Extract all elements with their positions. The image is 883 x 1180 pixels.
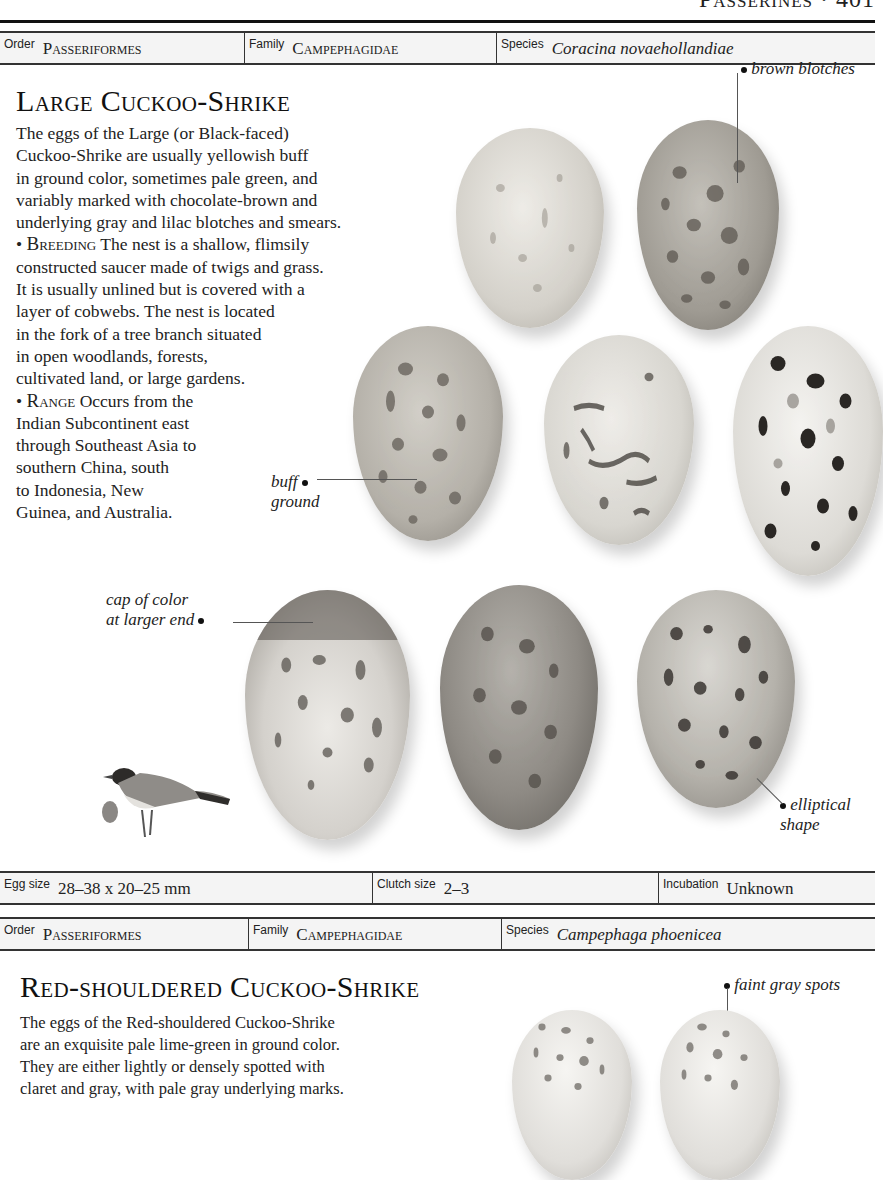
callout-faint-gray-spots: faint gray spots [724, 975, 840, 995]
range-heading: Range [27, 390, 76, 411]
bird-illustration [100, 755, 240, 840]
order-cell: Order Passeriformes [0, 919, 249, 949]
incubation-cell: Incubation Unknown [659, 873, 875, 903]
measurement-bar-species1: Egg size 28–38 x 20–25 mm Clutch size 2–… [0, 871, 875, 905]
leader-line [737, 73, 738, 183]
range-line: through Southeast Asia to [16, 434, 341, 456]
family-label: Family [249, 37, 284, 51]
family-label: Family [253, 923, 288, 937]
family-cell: Family Campephagidae [249, 919, 502, 949]
leader-line [233, 622, 313, 623]
egg-dark-spotted [733, 326, 883, 576]
species-label: Species [501, 37, 544, 51]
species-value: Coracina novaehollandiae [552, 39, 734, 59]
leader-line [317, 479, 417, 480]
order-cell: Order Passeriformes [0, 33, 245, 63]
species-cell: Species Campephaga phoenicea [502, 919, 875, 949]
description-line: variably marked with chocolate-brown and [16, 189, 341, 211]
description-line: Cuckoo-Shrike are usually yellowish buff [16, 144, 341, 166]
clutch-size-value: 2–3 [444, 879, 470, 899]
breeding-line: constructed saucer made of twigs and gra… [16, 256, 341, 278]
egg-spotted-lime [512, 1010, 632, 1180]
callout-buff-ground: buff ground [271, 472, 320, 512]
egg-streaked [544, 335, 694, 545]
family-cell: Family Campephagidae [245, 33, 497, 63]
breeding-heading: Breeding [27, 233, 97, 254]
breeding-line: cultivated land, or large gardens. [16, 367, 341, 389]
species-description: The eggs of the Large (or Black-faced) C… [16, 122, 341, 523]
order-value: Passeriformes [43, 39, 142, 59]
egg-faint-spotted [660, 1010, 780, 1180]
egg-dark-ground [440, 585, 598, 830]
callout-brown-blotches: brown blotches [741, 59, 855, 79]
callout-dot-icon [198, 618, 204, 624]
taxonomy-bar-species2: Order Passeriformes Family Campephagidae… [0, 917, 875, 951]
egg-buff-ground [353, 326, 503, 541]
description-line: The eggs of the Large (or Black-faced) [16, 122, 341, 144]
family-value: Campephagidae [296, 925, 402, 945]
description-line: are an exquisite pale lime-green in grou… [20, 1034, 344, 1056]
egg-brown-blotched [637, 120, 779, 330]
callout-elliptical-shape: ellipticalshape [780, 795, 851, 835]
breeding-line: It is usually unlined but is covered wit… [16, 278, 341, 300]
order-label: Order [4, 923, 35, 937]
egg-pale-buff [456, 128, 604, 328]
description-line: underlying gray and lilac blotches and s… [16, 211, 341, 233]
callout-cap-of-color: cap of colorat larger end [106, 590, 204, 630]
breeding-line: in the fork of a tree branch situated [16, 323, 341, 345]
breeding-first-line: • Breeding The nest is a shallow, flimsi… [16, 233, 341, 255]
egg-elliptical [637, 590, 795, 808]
description-line: The eggs of the Red-shouldered Cuckoo-Sh… [20, 1012, 344, 1034]
family-value: Campephagidae [292, 39, 398, 59]
clutch-size-label: Clutch size [377, 877, 436, 891]
running-head: Passerines · 401 [699, 0, 875, 13]
incubation-label: Incubation [663, 877, 718, 891]
breeding-line: in open woodlands, forests, [16, 345, 341, 367]
breeding-line: layer of cobwebs. The nest is located [16, 300, 341, 322]
clutch-size-cell: Clutch size 2–3 [373, 873, 659, 903]
range-line: Indian Subcontinent east [16, 412, 341, 434]
top-rule [0, 20, 875, 23]
scale-egg-icon [102, 801, 118, 823]
species-title: Large Cuckoo-Shrike [16, 84, 290, 118]
egg-capped [245, 590, 410, 840]
egg-size-value: 28–38 x 20–25 mm [58, 879, 191, 899]
description-line: in ground color, sometimes pale green, a… [16, 167, 341, 189]
description-line: They are either lightly or densely spott… [20, 1056, 344, 1078]
description-line: claret and gray, with pale gray underlyi… [20, 1078, 344, 1100]
species-label: Species [506, 923, 549, 937]
egg-size-cell: Egg size 28–38 x 20–25 mm [0, 873, 373, 903]
species-description: The eggs of the Red-shouldered Cuckoo-Sh… [20, 1012, 344, 1100]
incubation-value: Unknown [726, 879, 793, 899]
range-first-line: • Range Occurs from the [16, 390, 341, 412]
egg-size-label: Egg size [4, 877, 50, 891]
order-value: Passeriformes [43, 925, 142, 945]
order-label: Order [4, 37, 35, 51]
callout-dot-icon [302, 480, 308, 486]
species-value: Campephaga phoenicea [557, 925, 722, 945]
species-title: Red-shouldered Cuckoo-Shrike [20, 970, 419, 1004]
callout-dot-icon [741, 67, 747, 73]
